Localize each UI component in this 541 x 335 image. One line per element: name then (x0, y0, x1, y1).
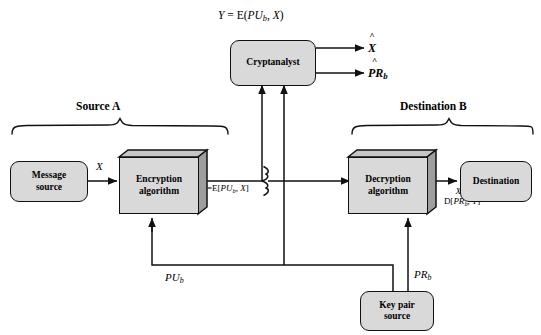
source-brace (12, 119, 228, 135)
channel-break-symbol (262, 167, 268, 182)
node-encryption-algorithm-face: Encryption algorithm (119, 157, 199, 214)
top-formula: Y = E(PUb, X) (218, 9, 284, 23)
section-title-source: Source A (76, 100, 120, 112)
edge-label-ciphertext: Y=E[PUb, X] (202, 183, 249, 194)
message-source-line-2: source (36, 182, 62, 192)
encryption-line-2: algorithm (139, 186, 179, 196)
ciphertext-key: PU (221, 183, 233, 193)
section-title-destination: Destination B (400, 100, 467, 112)
top-formula-close: ) (280, 9, 284, 21)
node-destination-label: Destination (473, 176, 519, 187)
node-key-pair-source[interactable]: Key pair source (360, 291, 434, 331)
message-source-line-1: Message (32, 170, 66, 180)
cryptanalyst-output-key-symbol: PR (368, 66, 383, 80)
cryptanalyst-output-key-guess: ^ PRb (368, 63, 388, 81)
node-cryptanalyst-label: Cryptanalyst (246, 57, 299, 68)
public-key-subscript: b (180, 276, 184, 285)
cryptanalyst-output-key-subscript: b (383, 71, 387, 81)
node-cryptanalyst[interactable]: Cryptanalyst (230, 40, 316, 86)
decryption-line-2: algorithm (368, 186, 408, 196)
edge-public-key-bus (152, 222, 393, 291)
edge-label-public-key: PUb (165, 271, 184, 285)
hat-accent-message: ^ (369, 32, 374, 41)
edge-label-private-key: PRb (414, 268, 431, 282)
node-decryption-algorithm[interactable]: Decryption algorithm (348, 150, 436, 222)
top-formula-fn: E( (237, 9, 248, 21)
private-key-subscript: b (427, 273, 431, 282)
top-formula-lhs: Y (218, 9, 224, 21)
ciphertext-fn: E[ (212, 183, 221, 193)
private-key-symbol: PR (414, 268, 427, 280)
cryptanalyst-output-message-symbol: X (368, 41, 376, 55)
ciphertext-close: ] (246, 183, 249, 193)
node-encryption-algorithm[interactable]: Encryption algorithm (119, 150, 207, 222)
keypair-line-2: source (384, 311, 410, 321)
top-formula-equals: = (227, 9, 234, 21)
public-key-symbol: PU (165, 271, 180, 283)
node-decryption-algorithm-face: Decryption algorithm (348, 157, 428, 214)
hat-accent-key: ^ (372, 57, 377, 66)
keypair-line-1: Key pair (379, 300, 415, 310)
node-destination[interactable]: Destination (460, 161, 532, 202)
node-message-source[interactable]: Message source (10, 161, 88, 202)
channel-break-symbol-lower (262, 181, 268, 196)
recovered-fn: D[ (444, 196, 454, 206)
edge-label-plaintext-in: X (96, 160, 103, 172)
diagram-canvas: Y = E(PUb, X) Source A Destination B Cry… (0, 0, 541, 335)
cryptanalyst-output-message-guess: ^ X (368, 38, 376, 56)
node-key-pair-source-label: Key pair source (379, 300, 415, 322)
top-formula-message: X (273, 9, 280, 21)
encryption-line-1: Encryption (136, 174, 182, 184)
top-formula-key: PU (248, 9, 263, 21)
decryption-line-1: Decryption (365, 174, 410, 184)
node-message-source-label: Message source (32, 170, 66, 192)
destination-brace (352, 119, 533, 135)
